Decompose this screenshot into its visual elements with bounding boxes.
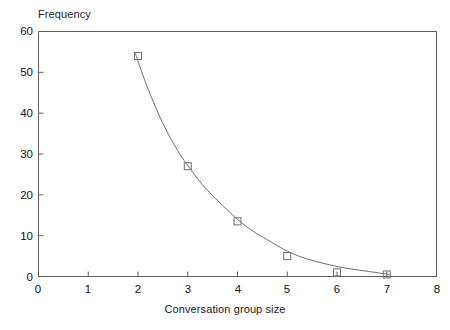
y-tick-label-40: 40 — [3, 107, 33, 119]
y-axis-title: Frequency — [38, 8, 91, 21]
y-tick-label-60: 60 — [3, 25, 33, 37]
x-tick-label-7: 7 — [374, 283, 400, 295]
x-tick-label-5: 5 — [274, 283, 300, 295]
y-tick-label-30: 30 — [3, 148, 33, 160]
y-tick-label-10: 10 — [3, 230, 33, 242]
plot-area — [38, 31, 437, 277]
y-tick-label-50: 50 — [3, 66, 33, 78]
y-tick-label-0: 0 — [3, 271, 33, 283]
x-tick-label-1: 1 — [75, 283, 101, 295]
x-tick-label-8: 8 — [424, 283, 450, 295]
chart-container: Frequency 60 50 40 30 20 10 0 0 1 2 3 4 … — [0, 0, 450, 330]
x-tick-label-0: 0 — [25, 283, 51, 295]
x-tick-label-3: 3 — [175, 283, 201, 295]
x-tick-label-4: 4 — [225, 283, 251, 295]
y-tick-label-20: 20 — [3, 189, 33, 201]
x-tick-label-2: 2 — [125, 283, 151, 295]
x-axis-title: Conversation group size — [0, 303, 450, 316]
x-tick-label-6: 6 — [324, 283, 350, 295]
